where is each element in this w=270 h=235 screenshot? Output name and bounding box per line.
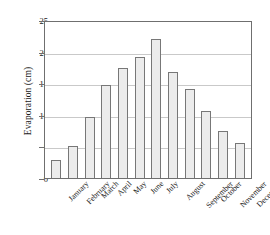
x-tick-label: August (185, 180, 207, 202)
x-tick-label: May (132, 180, 148, 196)
bar (218, 131, 228, 178)
bar (118, 68, 128, 178)
bar (235, 143, 245, 178)
bar (101, 85, 111, 178)
bar-series (45, 22, 251, 178)
x-tick-label: July (165, 180, 180, 195)
y-axis-title: Evaporation (cm) (21, 11, 35, 191)
bar (168, 72, 178, 178)
bar (201, 111, 211, 178)
x-axis-labels: JanuaryFebruaryMarchAprilMayJuneJulyAugu… (44, 180, 252, 235)
x-tick-label: June (149, 180, 165, 196)
bar (151, 39, 161, 178)
plot-area (44, 21, 252, 179)
bar (51, 160, 61, 178)
bar (68, 146, 78, 178)
bar (185, 89, 195, 178)
bar (85, 117, 95, 178)
bar (135, 57, 145, 178)
evaporation-bar-chart: Evaporation (cm) 0510152025 JanuaryFebru… (0, 0, 270, 235)
